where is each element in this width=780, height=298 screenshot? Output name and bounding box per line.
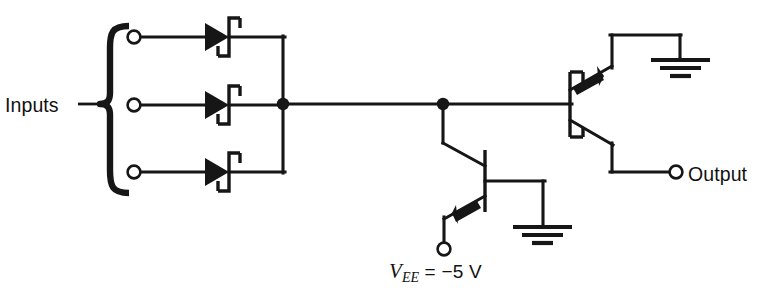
vee-value: −5 V — [441, 261, 481, 282]
schottky-diode-1[interactable] — [205, 18, 285, 56]
inputs-brace — [78, 26, 129, 193]
ground-symbol-top-right — [651, 60, 710, 76]
schematic-canvas — [0, 0, 780, 298]
transistor-q2[interactable] — [570, 35, 681, 172]
input-terminal-2[interactable] — [128, 99, 141, 112]
transistor-q1[interactable] — [443, 104, 545, 243]
schottky-diode-3[interactable] — [205, 153, 285, 191]
vee-supply-label: VEE = −5 V — [389, 259, 482, 286]
ground-symbol-bottom — [513, 227, 572, 243]
vee-equals: = — [419, 261, 441, 282]
vee-symbol: V — [389, 259, 402, 283]
circuit-diagram-figure: Inputs Output VEE = −5 V — [0, 0, 780, 298]
output-label: Output — [688, 163, 747, 186]
output-terminal[interactable] — [670, 166, 683, 179]
input-terminal-3[interactable] — [128, 166, 141, 179]
vee-subscript: EE — [402, 270, 419, 285]
input-terminal-1[interactable] — [128, 31, 141, 44]
inputs-label: Inputs — [5, 94, 59, 117]
schottky-diode-2[interactable] — [205, 86, 285, 124]
junction-node-a — [277, 98, 289, 110]
vee-terminal[interactable] — [438, 243, 451, 256]
